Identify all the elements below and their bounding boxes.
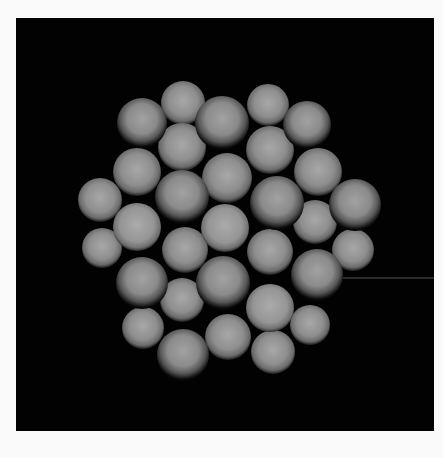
sphere bbox=[329, 179, 381, 231]
sphere bbox=[157, 329, 209, 381]
sphere bbox=[202, 153, 252, 203]
sphere bbox=[113, 148, 161, 196]
sphere bbox=[205, 314, 251, 360]
sphere bbox=[122, 307, 164, 349]
sphere bbox=[162, 227, 208, 273]
sphere bbox=[116, 257, 168, 309]
sphere bbox=[247, 84, 289, 126]
sphere bbox=[246, 284, 294, 332]
sphere bbox=[291, 249, 343, 301]
sphere bbox=[201, 204, 249, 252]
sphere bbox=[250, 176, 304, 230]
sphere bbox=[113, 203, 161, 251]
render-viewport bbox=[16, 18, 434, 431]
sphere bbox=[251, 330, 295, 374]
sphere bbox=[78, 178, 122, 222]
sphere bbox=[155, 170, 209, 224]
sphere bbox=[117, 98, 167, 148]
sphere bbox=[196, 256, 250, 310]
sphere bbox=[283, 101, 331, 149]
sphere bbox=[195, 96, 249, 150]
sphere bbox=[247, 229, 293, 275]
sphere bbox=[290, 305, 330, 345]
sphere-cluster bbox=[16, 18, 434, 431]
